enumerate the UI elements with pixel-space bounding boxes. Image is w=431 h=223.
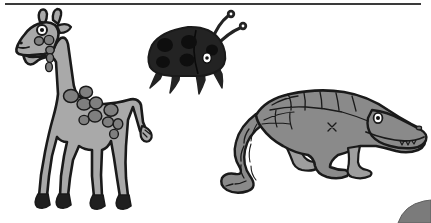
crocodile-tail bbox=[221, 114, 262, 193]
giraffe-ear bbox=[57, 24, 71, 33]
crocodile-figure bbox=[221, 90, 426, 192]
beetle-figure bbox=[148, 10, 247, 94]
giraffe-hooves bbox=[35, 194, 131, 209]
crocodile-front-leg bbox=[348, 146, 372, 178]
animals-artwork bbox=[0, 0, 431, 223]
bottom-right-corner-shape bbox=[398, 200, 431, 223]
giraffe-tail bbox=[141, 126, 152, 142]
giraffe-eye bbox=[37, 25, 47, 35]
crocodile-eye bbox=[374, 113, 383, 123]
giraffe-figure bbox=[16, 9, 151, 209]
beetle-eye bbox=[203, 53, 211, 63]
illustration-canvas bbox=[0, 0, 431, 223]
